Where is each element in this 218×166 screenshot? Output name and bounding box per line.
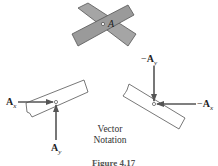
force-ay-label: Ay (51, 143, 61, 156)
notation-line-1: Vector (86, 124, 134, 135)
point-a-label: A (108, 18, 114, 29)
force-neg-ax-label: −Ax (197, 99, 213, 112)
figure-caption: Figure 4.17 (92, 158, 135, 166)
left-member (18, 80, 88, 140)
force-neg-ay-label: −Ay (141, 54, 157, 67)
force-ax-label: Ax (6, 97, 16, 110)
right-member (123, 66, 196, 129)
crossed-members (72, 3, 136, 46)
notation-line-2: Notation (86, 135, 134, 146)
pin-a-right (152, 102, 155, 105)
vector-notation-label: Vector Notation (86, 124, 134, 146)
pin-a-left (54, 100, 57, 103)
